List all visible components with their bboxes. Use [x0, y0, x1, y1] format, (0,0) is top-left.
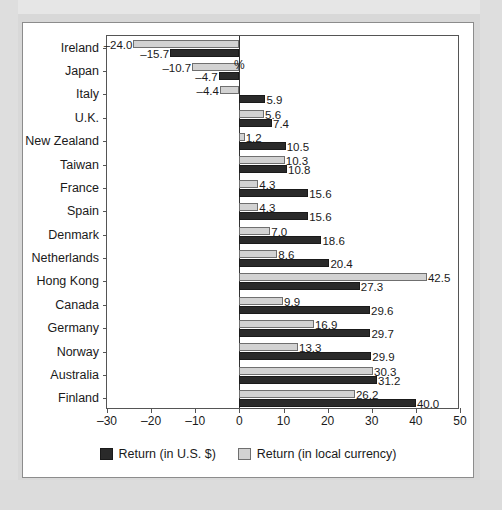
y-axis-label-finland: Finland — [0, 392, 99, 404]
bar-ireland-dark: –15.7 — [170, 49, 239, 57]
legend-item-light[interactable]: Return (in local currency) — [238, 447, 397, 461]
y-axis-tick — [103, 165, 107, 166]
bar-u-k--dark: 7.4 — [239, 119, 272, 127]
bar-finland-light: 26.2 — [239, 390, 355, 398]
x-axis-tick-label: 10 — [277, 414, 290, 428]
x-axis-tick — [284, 408, 285, 413]
x-axis-ticks: –30–20–1001020304050 — [107, 408, 458, 413]
bar-canada-dark: 29.6 — [239, 306, 370, 314]
y-axis-tick — [103, 211, 107, 212]
y-axis-tick — [103, 352, 107, 353]
x-axis-tick-label: 20 — [321, 414, 334, 428]
x-axis-tick-label: –10 — [185, 414, 205, 428]
x-axis-tick-label: 40 — [409, 414, 422, 428]
y-axis-tick — [103, 71, 107, 72]
bar-value-label: 20.4 — [330, 259, 352, 269]
bar-value-label: 10.5 — [287, 142, 309, 152]
bar-france-dark: 15.6 — [239, 189, 308, 197]
bar-value-label: 5.9 — [266, 95, 282, 105]
x-axis-tick — [416, 408, 417, 413]
x-axis-tick — [460, 408, 461, 413]
y-axis-label-norway: Norway — [0, 346, 99, 358]
bar-france-light: 4.3 — [239, 180, 258, 188]
x-axis-tick — [107, 408, 108, 413]
bar-denmark-light: 7.0 — [239, 227, 270, 235]
bar-japan-dark: –4.7 — [219, 72, 240, 80]
x-axis-tick — [328, 408, 329, 413]
bar-value-label: –24.0 — [104, 40, 133, 50]
legend-label: Return (in local currency) — [257, 447, 397, 461]
mat-top — [0, 0, 502, 14]
bar-value-label: –4.7 — [195, 72, 217, 82]
x-axis-title: % — [234, 58, 245, 72]
plot-area: –24.0–15.7–10.7–4.7–4.45.95.67.41.210.51… — [106, 35, 459, 409]
bar-spain-dark: 15.6 — [239, 212, 308, 220]
y-axis-tick — [103, 48, 107, 49]
bar-value-label: 15.6 — [309, 189, 331, 199]
y-axis-label-hong-kong: Hong Kong — [0, 275, 99, 287]
bar-canada-light: 9.9 — [239, 297, 283, 305]
x-axis-tick-label: 30 — [365, 414, 378, 428]
y-axis-label-new-zealand: New Zealand — [0, 135, 99, 147]
bar-australia-dark: 31.2 — [239, 376, 377, 384]
x-axis-tick-label: 0 — [236, 414, 243, 428]
bar-finland-dark: 40.0 — [239, 399, 416, 407]
legend-item-dark[interactable]: Return (in U.S. $) — [100, 447, 216, 461]
x-axis-tick — [195, 408, 196, 413]
y-axis-tick — [103, 328, 107, 329]
x-axis-tick — [239, 408, 240, 413]
bar-value-label: –10.7 — [162, 63, 191, 73]
bar-value-label: –15.7 — [140, 49, 169, 59]
mat-bottom — [0, 480, 502, 510]
y-axis-tick — [103, 305, 107, 306]
bar-value-label: –4.4 — [197, 86, 219, 96]
x-axis-tick — [372, 408, 373, 413]
mat-right — [480, 0, 502, 510]
bar-italy-light: –4.4 — [220, 86, 239, 94]
y-axis-tick — [103, 281, 107, 282]
y-axis-label-france: France — [0, 182, 99, 194]
y-axis-label-taiwan: Taiwan — [0, 159, 99, 171]
bar-italy-dark: 5.9 — [239, 95, 265, 103]
bar-japan-light: –10.7 — [192, 63, 239, 71]
bar-u-k--light: 5.6 — [239, 110, 264, 118]
y-axis-label-netherlands: Netherlands — [0, 252, 99, 264]
y-axis-label-australia: Australia — [0, 369, 99, 381]
legend-swatch-light-icon — [238, 448, 251, 460]
bar-new-zealand-dark: 10.5 — [239, 142, 285, 150]
y-axis-tick — [103, 398, 107, 399]
y-axis-tick — [103, 188, 107, 189]
y-axis-labels: IrelandJapanItalyU.K.New ZealandTaiwanFr… — [0, 36, 99, 410]
bar-value-label: 29.6 — [371, 306, 393, 316]
bar-value-label: 31.2 — [378, 376, 400, 386]
y-axis-label-italy: Italy — [0, 88, 99, 100]
y-axis-tick — [103, 94, 107, 95]
bar-value-label: 15.6 — [309, 212, 331, 222]
bar-value-label: 10.8 — [288, 165, 310, 175]
legend-label: Return (in U.S. $) — [119, 447, 216, 461]
y-axis-tick — [103, 235, 107, 236]
bar-norway-light: 13.3 — [239, 343, 298, 351]
bar-germany-light: 16.9 — [239, 320, 314, 328]
y-axis-label-spain: Spain — [0, 205, 99, 217]
bar-denmark-dark: 18.6 — [239, 236, 321, 244]
y-axis-label-ireland: Ireland — [0, 42, 99, 54]
chart-card: –24.0–15.7–10.7–4.7–4.45.95.67.41.210.51… — [22, 22, 474, 478]
y-axis-label-germany: Germany — [0, 322, 99, 334]
chart-legend: Return (in U.S. $)Return (in local curre… — [23, 447, 473, 461]
y-axis-tick — [103, 141, 107, 142]
bar-spain-light: 4.3 — [239, 203, 258, 211]
bar-ireland-light: –24.0 — [133, 40, 239, 48]
x-axis-tick — [151, 408, 152, 413]
y-axis-label-canada: Canada — [0, 299, 99, 311]
legend-swatch-dark-icon — [100, 448, 113, 460]
bar-new-zealand-light: 1.2 — [239, 133, 244, 141]
bar-taiwan-dark: 10.8 — [239, 165, 287, 173]
bar-netherlands-dark: 20.4 — [239, 259, 329, 267]
bar-taiwan-light: 10.3 — [239, 156, 284, 164]
bar-value-label: 29.9 — [372, 352, 394, 362]
bar-australia-light: 30.3 — [239, 367, 373, 375]
y-axis-label-u-k-: U.K. — [0, 112, 99, 124]
bar-norway-dark: 29.9 — [239, 352, 371, 360]
x-axis-tick-label: 50 — [453, 414, 466, 428]
